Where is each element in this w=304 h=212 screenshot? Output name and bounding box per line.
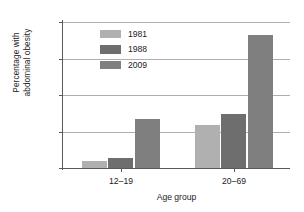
plot-area: 010203040 xyxy=(63,22,290,168)
gridline-40 xyxy=(63,22,290,23)
y-axis-tick-30 xyxy=(59,59,63,60)
legend: 198119882009 xyxy=(100,26,147,73)
bar-2009-20-69 xyxy=(248,35,273,168)
legend-label-1988: 1988 xyxy=(128,44,147,54)
bar-chart: Percentage with abdominal obesity 010203… xyxy=(0,0,304,212)
legend-item-2009: 2009 xyxy=(100,57,147,73)
bar-1988-20-69 xyxy=(221,114,246,168)
y-axis-title-line-1: Percentage with xyxy=(11,0,22,138)
x-axis-title: Age group xyxy=(63,192,290,202)
bar-2009-12-19 xyxy=(135,119,160,168)
legend-swatch-1981 xyxy=(100,30,121,39)
x-axis-tick-0 xyxy=(121,168,122,172)
legend-label-2009: 2009 xyxy=(128,60,147,70)
bar-1981-12-19 xyxy=(82,161,107,168)
legend-swatch-2009 xyxy=(100,61,121,70)
bar-1988-12-19 xyxy=(108,158,133,168)
legend-item-1981: 1981 xyxy=(100,26,147,42)
x-axis-tick-1 xyxy=(234,168,235,172)
legend-swatch-1988 xyxy=(100,45,121,54)
x-axis-category-0: 12–19 xyxy=(76,176,166,186)
y-axis-tick-10 xyxy=(59,132,63,133)
y-axis-tick-40 xyxy=(59,22,63,23)
legend-item-1988: 1988 xyxy=(100,42,147,58)
x-axis-category-1: 20–69 xyxy=(189,176,279,186)
y-axis-tick-0 xyxy=(59,168,63,169)
y-axis-title-line-2: abdominal obesity xyxy=(21,0,32,138)
legend-label-1981: 1981 xyxy=(128,29,147,39)
y-axis-title: Percentage with abdominal obesity xyxy=(11,0,32,138)
y-axis-tick-20 xyxy=(59,95,63,96)
bar-1981-20-69 xyxy=(195,125,220,168)
